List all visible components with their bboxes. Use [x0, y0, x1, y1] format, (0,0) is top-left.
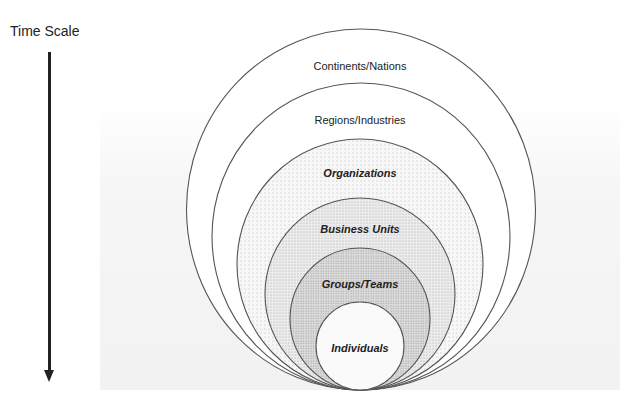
nested-circles-diagram: Continents/Nations Regions/Industries Or…	[0, 0, 644, 410]
label-business-units: Business Units	[320, 223, 399, 235]
label-groups-teams: Groups/Teams	[322, 278, 399, 290]
label-continents-nations: Continents/Nations	[314, 60, 407, 72]
label-individuals: Individuals	[331, 342, 388, 354]
label-organizations: Organizations	[323, 167, 396, 179]
label-regions-industries: Regions/Industries	[314, 114, 406, 126]
